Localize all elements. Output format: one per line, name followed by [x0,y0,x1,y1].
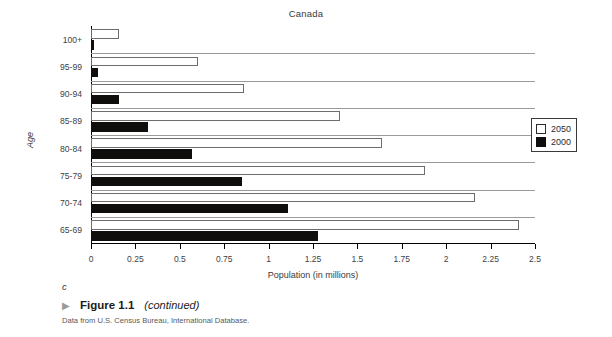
chart-legend: 20502000 [531,118,577,152]
x-tick-label: 0.5 [174,254,186,264]
bar-group: 80-84 [91,135,535,162]
bar-2050 [91,29,119,39]
legend-item: 2050 [536,122,571,135]
plot-area: 00.250.50.7511.251.51.7522.252.5 100+95-… [91,26,535,244]
bar-2000 [91,177,242,187]
x-tick-label: 1 [266,254,271,264]
y-category-label: 100+ [63,35,82,45]
x-tick-label: 1.25 [305,254,322,264]
bar-2000 [91,68,98,78]
x-tick-label: 2.5 [529,254,541,264]
caption-figure-number: Figure 1.1 [80,299,134,311]
bar-group: 65-69 [91,217,535,244]
x-tick-mark [491,244,492,249]
bar-group: 95-99 [91,53,535,80]
bar-group: 70-74 [91,190,535,217]
bar-2000 [91,40,94,50]
caption-source-note: Data from U.S. Census Bureau, Internatio… [62,316,582,325]
x-tick-mark [180,244,181,249]
x-tick-label: 1.75 [394,254,411,264]
chart-title: Canada [0,8,612,19]
bar-group: 85-89 [91,108,535,135]
bar-2000 [91,231,318,241]
caption-line: ▶ Figure 1.1 (continued) [62,299,582,311]
bar-group: 75-79 [91,162,535,189]
legend-label: 2000 [551,137,571,147]
x-tick-label: 2 [444,254,449,264]
y-category-label: 65-69 [60,225,82,235]
bar-2050 [91,166,425,176]
x-tick-label: 0.25 [127,254,144,264]
y-category-label: 90-94 [60,89,82,99]
x-tick-mark [446,244,447,249]
caption-arrow-icon: ▶ [62,301,70,311]
y-category-label: 80-84 [60,144,82,154]
x-tick-label: 0 [89,254,94,264]
bar-2050 [91,84,244,94]
figure-caption: ▶ Figure 1.1 (continued) Data from U.S. … [62,299,582,325]
bar-2000 [91,122,148,132]
x-tick-mark [313,244,314,249]
y-category-label: 75-79 [60,171,82,181]
x-tick-label: 0.75 [216,254,233,264]
x-tick-mark [135,244,136,249]
bar-group: 100+ [91,26,535,53]
x-tick-mark [269,244,270,249]
bar-2000 [91,204,288,214]
bar-2000 [91,95,119,105]
y-axis-title: Age [25,132,35,148]
x-tick-label: 1.5 [351,254,363,264]
subfigure-marker: c [62,281,67,292]
bar-2050 [91,220,519,230]
bar-2050 [91,138,382,148]
x-axis-title: Population (in millions) [91,270,535,280]
caption-continued-note: (continued) [144,299,199,311]
legend-swatch-2050 [536,124,546,134]
x-tick-label: 2.25 [482,254,499,264]
y-category-label: 70-74 [60,198,82,208]
bar-2050 [91,111,340,121]
bar-2000 [91,149,192,159]
x-tick-mark [357,244,358,249]
legend-label: 2050 [551,124,571,134]
x-tick-mark [535,244,536,249]
x-tick-mark [91,244,92,249]
y-category-label: 85-89 [60,116,82,126]
bar-2050 [91,57,198,67]
legend-swatch-2000 [536,137,546,147]
x-tick-mark [402,244,403,249]
bar-group: 90-94 [91,81,535,108]
bar-2050 [91,193,475,203]
legend-item: 2000 [536,135,571,148]
y-category-label: 95-99 [60,62,82,72]
figure-root: Canada 00.250.50.7511.251.51.7522.252.5 … [0,0,612,337]
x-tick-mark [224,244,225,249]
